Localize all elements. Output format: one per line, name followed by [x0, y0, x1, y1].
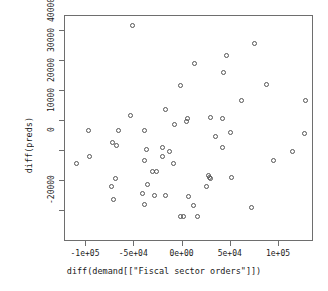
data-point — [213, 134, 218, 139]
y-axis-tick-label: 40000 — [47, 0, 56, 30]
data-point — [186, 194, 191, 199]
data-point — [113, 176, 118, 181]
x-axis-tick-label: 1e+05 — [266, 249, 290, 258]
data-point — [142, 202, 147, 207]
data-point — [130, 23, 135, 28]
data-point — [228, 130, 233, 135]
data-point — [184, 119, 189, 124]
y-axis-tick — [59, 180, 64, 181]
x-axis-label: diff(demand[["Fiscal sector orders"]]) — [0, 266, 328, 276]
data-point — [160, 145, 165, 150]
x-axis-tick — [133, 241, 134, 246]
x-axis-tick — [182, 241, 183, 246]
y-axis-label-text: diff(preds) — [24, 117, 34, 173]
plot-panel — [64, 15, 313, 241]
data-point — [140, 191, 145, 196]
data-point — [114, 143, 119, 148]
data-point — [163, 107, 168, 112]
data-point — [86, 128, 91, 133]
y-axis-tick — [59, 150, 64, 151]
data-point — [154, 169, 159, 174]
data-point — [152, 193, 157, 198]
data-point — [178, 83, 183, 88]
y-axis-label: diff(preds) — [24, 0, 34, 291]
data-point — [116, 128, 121, 133]
data-point — [191, 203, 196, 208]
y-axis-tick — [59, 210, 64, 211]
y-axis-tick — [59, 60, 64, 61]
data-point — [74, 161, 79, 166]
y-axis-tick — [59, 120, 64, 121]
x-axis-tick — [85, 241, 86, 246]
data-point — [249, 205, 254, 210]
data-point — [87, 154, 92, 159]
data-point — [208, 115, 213, 120]
data-point — [172, 122, 177, 127]
data-point — [111, 197, 116, 202]
y-axis-tick — [59, 90, 64, 91]
data-point — [303, 98, 308, 103]
data-point — [224, 53, 229, 58]
data-point — [252, 41, 257, 46]
data-point — [181, 214, 186, 219]
x-axis-tick-label: -5e+04 — [119, 249, 148, 258]
data-point — [192, 61, 197, 66]
y-axis-tick-label: -20000 — [47, 170, 56, 210]
data-point — [290, 149, 295, 154]
data-point — [204, 184, 209, 189]
data-point — [128, 113, 133, 118]
data-point — [239, 98, 244, 103]
scatter-plot-figure: -1e+05-5e+040e+005e+041e+05 -20000010000… — [0, 0, 328, 291]
data-point — [142, 158, 147, 163]
data-point — [221, 70, 226, 75]
x-axis-tick — [278, 241, 279, 246]
data-point — [271, 158, 276, 163]
data-point — [220, 145, 225, 150]
data-point — [302, 131, 307, 136]
data-point — [264, 82, 269, 87]
data-point — [109, 184, 114, 189]
data-point — [208, 176, 213, 181]
x-axis-tick-label: 0e+00 — [169, 249, 193, 258]
data-points-layer — [65, 16, 312, 240]
data-point — [171, 161, 176, 166]
data-point — [163, 193, 168, 198]
data-point — [142, 128, 147, 133]
data-point — [167, 149, 172, 154]
data-point — [144, 147, 149, 152]
data-point — [145, 182, 150, 187]
data-point — [229, 175, 234, 180]
data-point — [160, 154, 165, 159]
data-point — [195, 214, 200, 219]
x-axis-tick-label: 5e+04 — [218, 249, 242, 258]
x-axis-tick-label: -1e+05 — [71, 249, 100, 258]
data-point — [220, 116, 225, 121]
y-axis-tick — [59, 30, 64, 31]
x-axis-tick — [230, 241, 231, 246]
